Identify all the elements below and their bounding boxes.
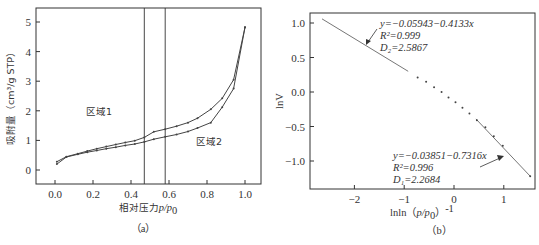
data-point (468, 112, 470, 114)
isotherm-point (134, 140, 136, 142)
y-tick-label: 0 (26, 164, 32, 176)
isotherm-point (221, 106, 223, 108)
panel-b-data-points (417, 77, 532, 178)
data-point (484, 126, 486, 128)
panel-a-caption: （a） (131, 223, 156, 234)
panel-b-x-axis-label-sup: -1 (445, 203, 454, 214)
data-point (493, 135, 495, 137)
isotherm-point (176, 133, 178, 135)
isotherm-point (164, 128, 166, 130)
panel-b-fractal-chart: 1.00.50.0−0.5−1.0 −2−101 y=−0.05943−0.41… (274, 13, 535, 236)
data-point (476, 119, 478, 121)
isotherm-point (56, 161, 58, 163)
panel-a-x-axis-label-var: p/p (158, 202, 172, 213)
x-tick-label: 0.6 (162, 188, 176, 200)
isotherm-point (210, 122, 212, 124)
isotherm-point (197, 117, 199, 119)
panel-b-x-axis-label-post: ） (435, 207, 445, 218)
data-point (433, 86, 435, 88)
figure: 012345 0.00.20.40.60.81.0 区域1 区域2 吸附量（cm… (0, 0, 539, 245)
panel-a-frame (36, 8, 261, 184)
x-tick-label: 0.2 (86, 188, 100, 200)
x-tick-label: 1.0 (238, 188, 252, 200)
isotherm-point (115, 144, 117, 146)
y-tick-label: 4 (26, 46, 32, 58)
data-point (461, 107, 463, 109)
y-tick-label: −0.5 (285, 121, 305, 133)
data-point (454, 101, 456, 103)
isotherm-point (96, 149, 98, 151)
isotherm-point (153, 131, 155, 133)
panel-b-x-axis-label-var: p/p (415, 207, 429, 218)
x-tick-label: −2 (349, 193, 361, 205)
panel-a-x-axis-label: 相对压力p/p0 (119, 202, 178, 216)
panel-a-y-ticks: 012345 (26, 16, 41, 176)
isotherm-point (86, 151, 88, 153)
panel-b-arrow-bottom-head (497, 155, 504, 161)
panel-b-x-ticks: −2−101 (349, 185, 507, 205)
isotherm-point (197, 127, 199, 129)
isotherm-point (187, 131, 189, 133)
y-tick-label: −1.0 (285, 155, 305, 167)
x-tick-label: 0.8 (200, 188, 214, 200)
panel-a-region-divider-lines (144, 8, 165, 184)
panel-b-caption: （b） (426, 225, 451, 236)
y-tick-label: 3 (26, 75, 32, 87)
data-point (441, 91, 443, 93)
x-tick-label: −1 (398, 193, 410, 205)
isotherm-point (124, 144, 126, 146)
panel-a-region1-label: 区域1 (86, 106, 112, 117)
panel-b-fit-bottom-equation: y=−0.03851−0.7316x (392, 150, 487, 161)
panel-b-x-axis-label-pre: lnln（ (390, 207, 416, 218)
y-tick-label: 1.0 (291, 17, 305, 29)
isotherm-point (143, 141, 145, 143)
isotherm-point (105, 148, 107, 150)
isotherm-point (124, 141, 126, 143)
data-point (529, 175, 531, 177)
isotherm-point (176, 125, 178, 127)
isotherm-point (153, 138, 155, 140)
x-tick-label: 1 (501, 193, 507, 205)
isotherm-point (96, 148, 98, 150)
data-point (417, 77, 419, 79)
isotherm-point (187, 122, 189, 124)
panel-a-x-axis-label-text: 相对压力 (119, 202, 159, 213)
isotherm-point (77, 153, 79, 155)
panel-a-x-ticks: 0.00.20.40.60.81.0 (48, 180, 252, 200)
isotherm-point (221, 97, 223, 99)
panel-a-y-axis-label: 吸附量（cm³/g STP） (5, 47, 16, 145)
isotherm-point (134, 143, 136, 145)
data-point (448, 97, 450, 99)
panel-b-arrow-top-head (366, 39, 371, 45)
y-tick-label: 2 (26, 105, 32, 117)
isotherm-point (233, 88, 235, 90)
isotherm-point (210, 108, 212, 110)
panel-b-y-axis-label: lnV (274, 93, 285, 109)
panel-b-fit-top-r2: R²=0.999 (379, 30, 421, 41)
panel-b-arrow-top (368, 29, 377, 42)
panel-a-x-axis-label-sub: 0 (172, 205, 177, 216)
y-tick-label: 0.0 (291, 86, 305, 98)
isotherm-point (143, 136, 145, 138)
isotherm-point (65, 156, 67, 158)
x-tick-label: 0.0 (48, 188, 62, 200)
panel-a-region2-label: 区域2 (196, 136, 222, 147)
isotherm-point (164, 136, 166, 138)
data-point (425, 81, 427, 83)
panel-b-fit-bottom-dimension: D₁=2.2684 (392, 174, 441, 185)
y-tick-label: 0.5 (291, 52, 305, 64)
isotherm-point (115, 146, 117, 148)
y-tick-label: 5 (26, 16, 32, 28)
isotherm-point (244, 26, 246, 28)
isotherm-point (56, 163, 58, 165)
panel-b-fit-top-dimension: D₂=2.5867 (379, 42, 428, 53)
panel-a-isotherm-chart: 012345 0.00.20.40.60.81.0 区域1 区域2 吸附量（cm… (5, 8, 261, 234)
panel-b-fit-bottom-r2: R²=0.996 (392, 162, 434, 173)
data-point (502, 145, 504, 147)
y-tick-label: 1 (26, 134, 32, 146)
x-tick-label: 0.4 (124, 188, 138, 200)
fit-line-region1 (476, 119, 530, 176)
panel-b-x-axis-label: lnln（p/p0）-1 (390, 203, 454, 221)
isotherm-point (105, 146, 107, 148)
isotherm-point (233, 79, 235, 81)
